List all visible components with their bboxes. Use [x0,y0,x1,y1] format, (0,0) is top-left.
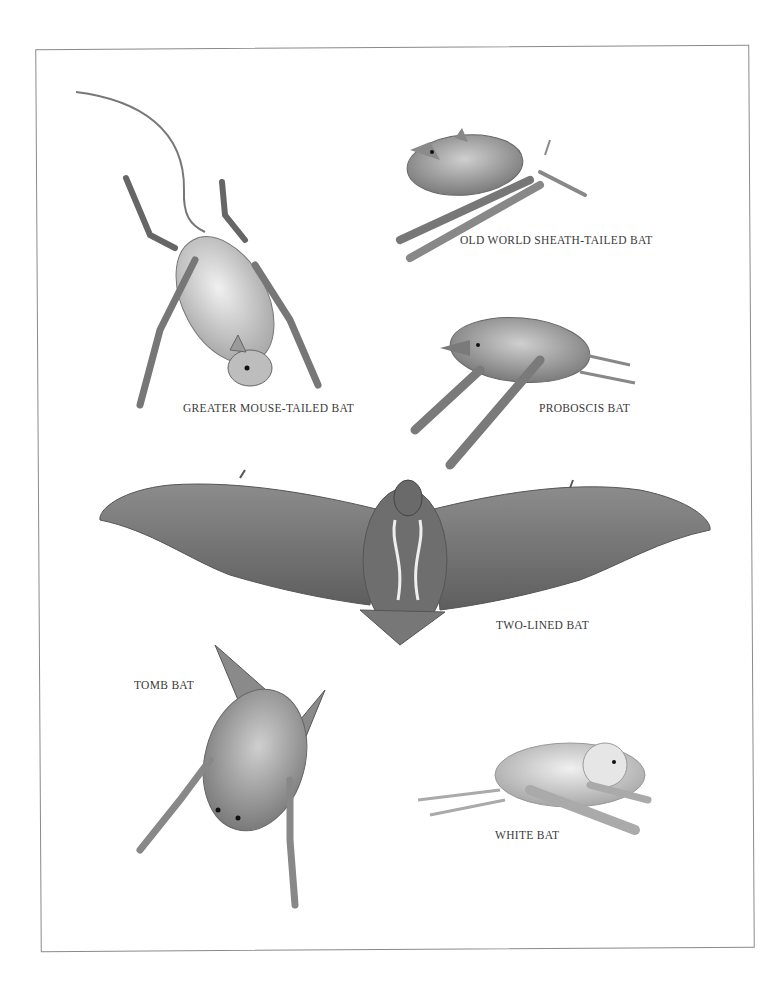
label-tomb-bat: TOMB BAT [134,679,194,691]
label-old-world-sheath-tailed-bat: OLD WORLD SHEATH-TAILED BAT [460,234,653,246]
label-greater-mouse-tailed-bat: GREATER MOUSE-TAILED BAT [183,402,354,414]
label-white-bat: WHITE BAT [495,829,559,841]
two-lined-bat-drawing [100,470,710,645]
greater-mouse-tailed-bat-drawing [76,92,318,405]
label-two-lined-bat: TWO-LINED BAT [496,619,589,631]
proboscis-bat-drawing [415,312,635,465]
label-proboscis-bat: PROBOSCIS BAT [539,402,630,414]
white-bat-drawing [418,743,648,830]
illustration-canvas [0,0,783,996]
